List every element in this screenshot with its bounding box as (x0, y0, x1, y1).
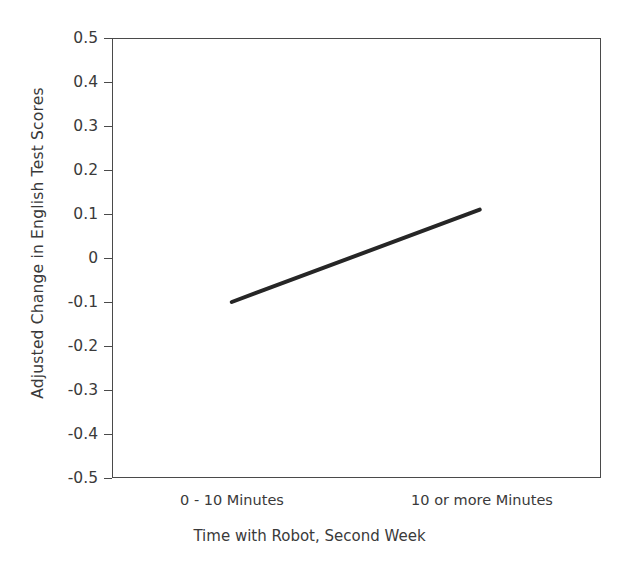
y-tick-label: 0.3 (42, 117, 98, 135)
y-tick-mark (104, 170, 112, 171)
y-tick-label: -0.1 (42, 293, 98, 311)
y-tick-label: 0.4 (42, 73, 98, 91)
y-tick-mark (104, 390, 112, 391)
y-tick-label: -0.3 (42, 381, 98, 399)
x-tick-label-0: 0 - 10 Minutes (180, 492, 284, 508)
y-tick-mark (104, 214, 112, 215)
chart-figure: Adjusted Change in English Test Scores 0… (0, 0, 639, 570)
plot-area (112, 38, 601, 478)
x-axis-title: Time with Robot, Second Week (0, 527, 639, 545)
y-tick-label: 0.2 (42, 161, 98, 179)
y-tick-mark (104, 434, 112, 435)
y-tick-mark (104, 302, 112, 303)
y-tick-mark (104, 258, 112, 259)
y-tick-mark (104, 478, 112, 479)
x-axis-title-text: Time with Robot, Second Week (193, 527, 425, 545)
y-tick-mark (104, 346, 112, 347)
y-tick-label: -0.2 (42, 337, 98, 355)
y-tick-label: 0.5 (42, 29, 98, 47)
y-tick-label: -0.5 (42, 469, 98, 487)
x-tick-label-1: 10 or more Minutes (411, 492, 553, 508)
y-tick-mark (104, 38, 112, 39)
y-tick-mark (104, 126, 112, 127)
y-tick-mark (104, 82, 112, 83)
trend-line-series (232, 210, 480, 302)
y-tick-label: 0 (42, 249, 98, 267)
y-tick-label: -0.4 (42, 425, 98, 443)
y-tick-label: 0.1 (42, 205, 98, 223)
